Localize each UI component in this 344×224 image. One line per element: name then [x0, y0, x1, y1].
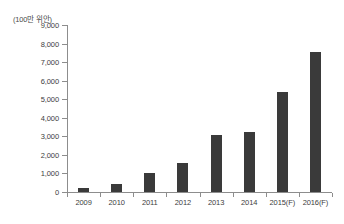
bar — [177, 163, 188, 192]
x-tick — [67, 193, 68, 197]
y-tick-label: 2,000 — [0, 150, 59, 159]
x-tick — [299, 193, 300, 197]
bar — [244, 132, 255, 192]
x-tick — [166, 193, 167, 197]
bar — [310, 52, 321, 192]
x-tick — [233, 193, 234, 197]
x-tick — [266, 193, 267, 197]
y-tick-label: 8,000 — [0, 39, 59, 48]
x-tick-label: 2014 — [241, 198, 257, 207]
bar — [277, 92, 288, 192]
x-tick-label: 2011 — [142, 198, 158, 207]
x-tick-label: 2013 — [208, 198, 224, 207]
bar — [211, 135, 222, 192]
bars-layer — [67, 25, 332, 192]
bar — [111, 184, 122, 192]
bar-chart: (100만 위안) 01,0002,0003,0004,0005,0006,00… — [0, 0, 344, 224]
y-tick-label: 5,000 — [0, 95, 59, 104]
x-tick — [100, 193, 101, 197]
x-tick — [200, 193, 201, 197]
x-tick-label: 2012 — [175, 198, 191, 207]
x-tick — [332, 193, 333, 197]
x-tick-label: 2016(F) — [303, 198, 329, 207]
y-tick-label: 1,000 — [0, 169, 59, 178]
y-tick-label: 9,000 — [0, 21, 59, 30]
x-tick-label: 2015(F) — [270, 198, 296, 207]
bar — [78, 188, 89, 192]
x-tick-label: 2009 — [75, 198, 91, 207]
bar — [144, 173, 155, 192]
y-tick-label: 3,000 — [0, 132, 59, 141]
x-tick — [133, 193, 134, 197]
y-tick-label: 7,000 — [0, 58, 59, 67]
y-tick-label: 6,000 — [0, 76, 59, 85]
y-tick-label: 4,000 — [0, 113, 59, 122]
y-tick-label: 0 — [0, 188, 59, 197]
x-tick-label: 2010 — [109, 198, 125, 207]
